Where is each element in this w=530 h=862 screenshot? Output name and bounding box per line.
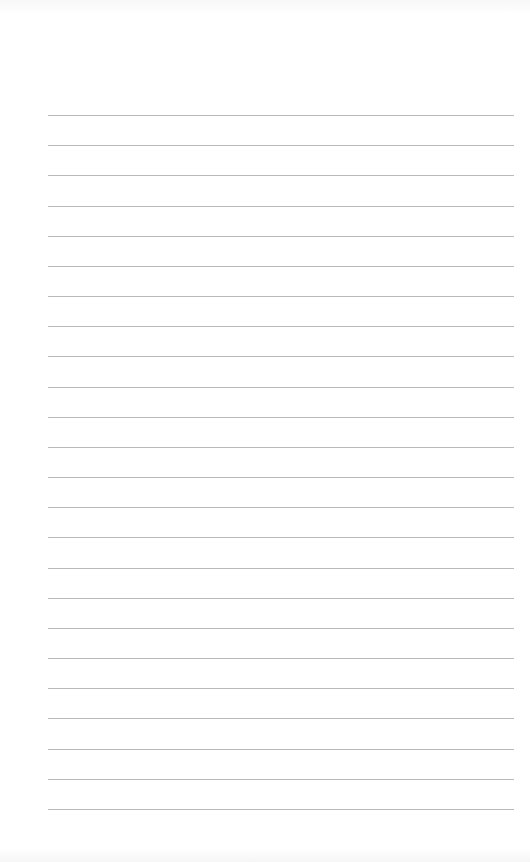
ruled-line [48, 447, 514, 448]
lined-paper-page [0, 0, 530, 862]
ruled-line [48, 356, 514, 357]
ruled-line [48, 658, 514, 659]
ruled-line [48, 688, 514, 689]
ruled-line [48, 507, 514, 508]
ruled-line [48, 749, 514, 750]
ruled-line [48, 628, 514, 629]
ruled-line [48, 145, 514, 146]
ruled-line [48, 477, 514, 478]
ruled-line [48, 175, 514, 176]
ruled-line [48, 266, 514, 267]
ruled-line [48, 779, 514, 780]
ruled-line [48, 417, 514, 418]
ruled-line [48, 115, 514, 116]
ruled-line [48, 326, 514, 327]
ruled-line [48, 809, 514, 810]
ruled-line [48, 206, 514, 207]
ruled-line [48, 236, 514, 237]
ruled-line [48, 387, 514, 388]
ruled-lines [0, 0, 530, 862]
ruled-line [48, 537, 514, 538]
ruled-line [48, 568, 514, 569]
ruled-line [48, 296, 514, 297]
ruled-line [48, 598, 514, 599]
ruled-line [48, 718, 514, 719]
